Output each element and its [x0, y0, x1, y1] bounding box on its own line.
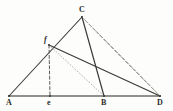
point-c: [81, 16, 83, 18]
point-d: [159, 95, 161, 97]
point-label-d: D: [157, 98, 163, 107]
point-e: [49, 95, 51, 97]
point-label-e: e: [47, 98, 51, 107]
point-f: [48, 44, 50, 46]
point-label-c: C: [79, 5, 85, 14]
geometry-figure: AeBDCf: [0, 0, 173, 111]
point-a: [8, 95, 10, 97]
point-b: [103, 95, 105, 97]
figure-background: [0, 0, 173, 111]
figure-canvas: AeBDCf: [0, 0, 173, 111]
point-label-b: B: [101, 98, 107, 107]
point-label-a: A: [6, 98, 12, 107]
